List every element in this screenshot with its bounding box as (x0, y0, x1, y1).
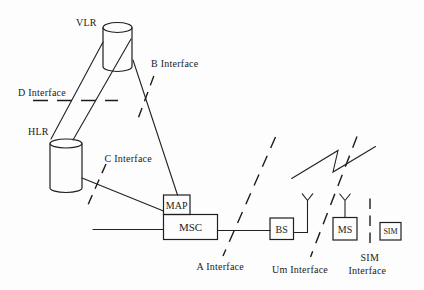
bs-antenna-icon (302, 194, 312, 233)
msc-label: MSC (179, 221, 202, 233)
vlr-hlr-link-right (73, 39, 131, 140)
sim-label: SIM (383, 227, 397, 236)
d-interface-label: D Interface (18, 87, 66, 98)
vlr-msc-link (133, 60, 178, 195)
bs-label: BS (276, 224, 288, 235)
sim-interface-label-line2: Interface (349, 265, 387, 276)
vlr-label: VLR (76, 17, 97, 28)
b-interface-label: B Interface (151, 58, 199, 69)
sim-interface-label-line1: SIM (361, 252, 380, 263)
diagram-svg: MAP MSC BS MS SIM VLR HLR D Interface B … (0, 0, 424, 290)
um-interface-label: Um Interface (272, 264, 328, 275)
hlr-msc-link (82, 178, 164, 211)
ms-antenna-icon (340, 194, 350, 218)
vlr-cylinder (103, 23, 132, 72)
a-interface-dashed-line (223, 137, 276, 256)
a-interface-label: A Interface (197, 261, 245, 272)
zigzag-radio-link-icon (292, 147, 376, 179)
hlr-cylinder (50, 139, 82, 193)
map-label: MAP (166, 200, 188, 211)
hlr-label: HLR (28, 126, 49, 137)
gsm-architecture-diagram: MAP MSC BS MS SIM VLR HLR D Interface B … (0, 0, 424, 290)
c-interface-dashed-line (87, 164, 106, 207)
ms-label: MS (338, 224, 352, 235)
um-interface-dashed-line (311, 137, 358, 258)
c-interface-label: C Interface (105, 153, 153, 164)
